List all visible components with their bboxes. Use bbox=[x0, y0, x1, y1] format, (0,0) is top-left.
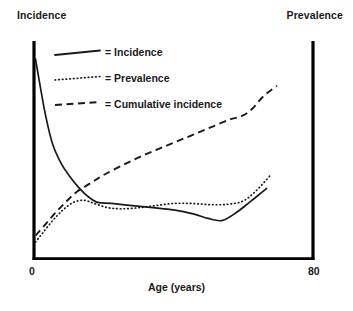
x-axis-tick-max: 80 bbox=[308, 265, 320, 277]
legend-swatches bbox=[55, 51, 100, 106]
data-series-group bbox=[36, 59, 278, 242]
plot-area bbox=[0, 0, 353, 311]
series-line-prevalence bbox=[36, 176, 271, 242]
legend-item-cumulative-incidence: = Cumulative incidence bbox=[105, 98, 222, 110]
axis-lines bbox=[33, 41, 315, 260]
x-axis-tick-min: 0 bbox=[29, 265, 35, 277]
chart-figure: Incidence Prevalence = Incidence = Preva… bbox=[0, 0, 353, 311]
legend-swatch-cumulative-incidence bbox=[55, 102, 100, 105]
legend-item-incidence: = Incidence bbox=[105, 46, 162, 58]
legend-item-prevalence: = Prevalence bbox=[105, 72, 170, 84]
x-axis-title: Age (years) bbox=[0, 281, 353, 293]
legend-swatch-incidence bbox=[55, 51, 100, 56]
legend-swatch-prevalence bbox=[55, 77, 100, 81]
